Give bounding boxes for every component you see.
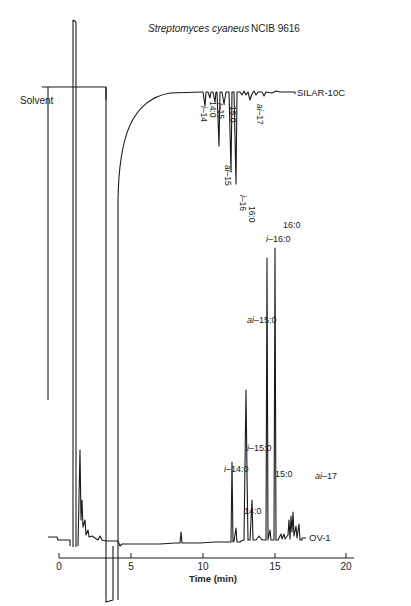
- silar-peak-ai-17: ai–17: [255, 104, 265, 125]
- ov1-peak-ai-17: ai–17: [315, 471, 337, 481]
- series-ov-1: [48, 248, 306, 546]
- chromatogram-chart: Streptomyces cyaneus NCIB 9616 Solvent S…: [0, 0, 411, 606]
- ov1-peak-ai-15-0: ai–15:0: [247, 315, 277, 325]
- chart-title-species: Streptomyces cyaneus: [148, 23, 249, 34]
- x-axis-label: Time (min): [189, 573, 237, 584]
- x-tick-label-5: 5: [128, 561, 134, 572]
- ov1-peak-labels: i–14:0 14:0 i–15:0 ai–15:0 15:0 i–16:0 1…: [224, 220, 337, 516]
- silar-peak-labels: i–14 14:0 i–15 ai–15 15:0 i–16 16:0 ai–1…: [199, 101, 265, 223]
- chart-title-strain: NCIB 9616: [251, 23, 300, 34]
- silar-peak-ai-15: ai–15: [223, 165, 233, 186]
- silar-peak-15-0: 15:0: [228, 106, 238, 123]
- x-tick-label-10: 10: [197, 561, 209, 572]
- ov1-peak-i-16-0: i–16:0: [266, 234, 291, 244]
- series-label-ov1: OV-1: [309, 532, 331, 543]
- x-tick-label-0: 0: [56, 561, 62, 572]
- x-axis: 0 5 10 15 20 Time (min): [56, 553, 354, 584]
- ov1-peak-i-15-0: i–15:0: [247, 443, 272, 453]
- silar-peak-i-15: i–15: [216, 103, 226, 119]
- ov1-peak-i-14-0: i–14:0: [224, 464, 249, 474]
- silar-peak-i-14: i–14: [199, 106, 209, 122]
- ov1-peak-16-0: 16:0: [283, 220, 301, 230]
- series-label-silar: SILAR-10C: [297, 87, 345, 98]
- x-tick-label-15: 15: [269, 561, 281, 572]
- ov1-peak-14-0: 14:0: [244, 506, 262, 516]
- silar-peak-16-0: 16:0: [247, 206, 257, 223]
- x-tick-label-20: 20: [340, 561, 352, 572]
- ov1-peak-15-0: 15:0: [275, 469, 293, 479]
- silar-peak-i-16: i–16: [238, 195, 248, 211]
